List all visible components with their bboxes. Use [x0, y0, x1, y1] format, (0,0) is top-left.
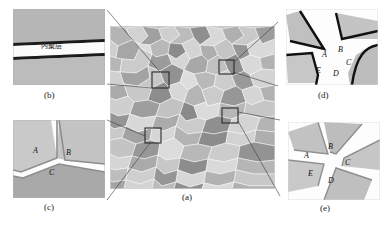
separated-junction-svg — [286, 9, 378, 85]
box-upper-right[interactable] — [219, 60, 234, 74]
panel-d-label: (d) — [318, 90, 329, 100]
panel-c-grain-label-c: C — [49, 168, 54, 177]
panel-e-grain-label-c: C — [345, 158, 350, 167]
triple-junction-svg — [13, 120, 105, 198]
panel-d-grain-label-e: E — [316, 66, 321, 75]
panel-d-grain-label-b: B — [338, 45, 343, 54]
panel-c-label: (c) — [44, 202, 54, 212]
panel-e-grain-label-b: B — [328, 142, 333, 151]
box-upper-left[interactable] — [152, 72, 169, 88]
box-lower-right[interactable] — [222, 108, 238, 123]
cohesive-layer-annotation: 内聚层 — [41, 40, 62, 50]
panel-d-separated-junction — [286, 9, 378, 85]
panel-a-label: (a) — [182, 192, 192, 202]
panel-e-grain-label-e: E — [308, 169, 313, 178]
panel-c-triple-junction — [13, 120, 105, 198]
panel-d-grain-label-a: A — [322, 50, 327, 59]
figure-root: 内聚层 (b) A B C (c) — [0, 0, 384, 229]
box-lower-left[interactable] — [145, 128, 161, 143]
panel-e-grain-label-d: D — [328, 176, 334, 185]
panel-c-grain-label-b: B — [66, 148, 71, 157]
panel-e-five-grain-junction — [288, 122, 380, 200]
panel-e-label: (e) — [320, 203, 330, 213]
panel-d-grain-label-c: C — [346, 58, 351, 67]
panel-d-grain-label-d: D — [333, 69, 339, 78]
panel-b-label: (b) — [44, 90, 55, 100]
panel-c-grain-label-a: A — [33, 146, 38, 155]
five-grain-junction-svg — [288, 122, 380, 200]
panel-e-grain-label-a: A — [304, 151, 309, 160]
